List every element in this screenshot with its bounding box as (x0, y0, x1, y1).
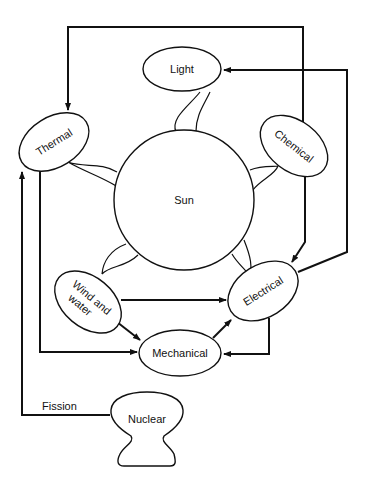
node-sun: Sun (114, 130, 254, 270)
nuclear-label: Nuclear (128, 413, 166, 425)
light-label: Light (170, 63, 194, 75)
node-chemical: Chemical (249, 103, 340, 189)
mechanical-label: Mechanical (152, 347, 208, 359)
energy-diagram: Sun Light Thermal Chemical Wind and wate… (0, 0, 369, 481)
fission-label: Fission (42, 400, 77, 412)
node-wind-water: Wind and water (43, 258, 133, 345)
sun-label: Sun (174, 194, 194, 206)
node-mechanical: Mechanical (139, 330, 221, 376)
node-nuclear: Nuclear (111, 392, 183, 466)
node-light: Light (143, 47, 221, 91)
